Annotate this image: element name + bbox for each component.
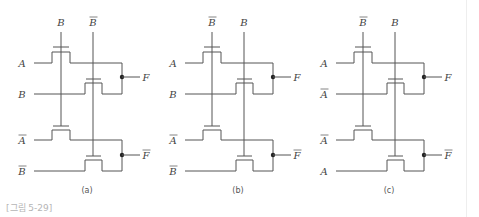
panel-sublabel: (a) <box>81 186 92 195</box>
figure-caption: [그림 5-29] <box>6 201 52 214</box>
gate-label-1: B <box>358 17 366 28</box>
gate-label-1: B <box>207 17 215 28</box>
gate-label-1: B <box>56 17 64 28</box>
transistor-4-channel <box>387 160 404 171</box>
output-label-2: F <box>293 150 302 161</box>
panel-sublabel: (b) <box>232 186 243 195</box>
input-label-1: A <box>319 58 327 69</box>
output-label-2: F <box>444 150 453 161</box>
input-label-3: A <box>319 135 327 146</box>
output-label-1: F <box>293 72 302 83</box>
input-label-1: A <box>168 58 176 69</box>
transistor-4-channel <box>85 160 102 171</box>
panel-b: BBABFABF(b) <box>168 17 301 195</box>
pass-transistor-figure: BBABFABF(a)BBABFABF(b)BBAAFAAF(c) <box>0 0 479 217</box>
page-edge-divider <box>466 0 467 217</box>
gate-label-2: B <box>239 17 247 28</box>
panel-c: BBAAFAAF(c) <box>319 17 452 195</box>
transistor-3-channel <box>354 130 372 140</box>
input-label-3: A <box>17 135 25 146</box>
panel-sublabel: (c) <box>384 186 395 195</box>
input-label-3: A <box>168 135 176 146</box>
input-label-4: B <box>17 166 25 177</box>
input-label-4: B <box>168 166 176 177</box>
output-label-1: F <box>444 72 453 83</box>
input-label-4: A <box>319 166 327 177</box>
transistor-3-channel <box>52 130 70 140</box>
panel-a: BBABFABF(a) <box>17 17 150 195</box>
input-label-2: A <box>319 89 327 100</box>
input-label-2: B <box>17 89 25 100</box>
input-label-1: A <box>17 58 25 69</box>
transistor-3-channel <box>203 130 221 140</box>
output-label-1: F <box>142 72 151 83</box>
input-label-2: B <box>168 89 176 100</box>
gate-label-2: B <box>390 17 398 28</box>
output-label-2: F <box>142 150 151 161</box>
transistor-4-channel <box>236 160 253 171</box>
gate-label-2: B <box>88 17 96 28</box>
